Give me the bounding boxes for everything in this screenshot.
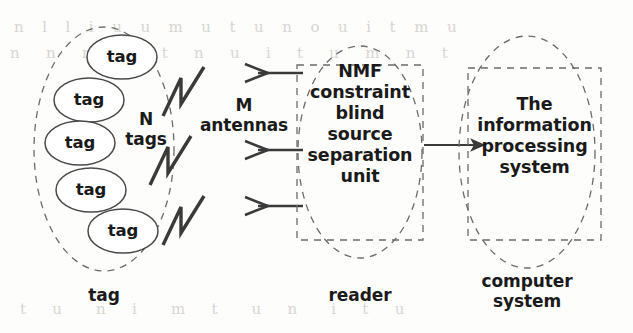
tag-label-1: tag	[92, 47, 152, 66]
m-antennas-label: M antennas	[192, 96, 296, 135]
tag-group-caption: tag	[74, 285, 134, 305]
rf-signal-zigzag-3	[163, 196, 204, 245]
antenna-arrow-2	[245, 141, 303, 159]
antenna-arrows	[245, 64, 303, 215]
antenna-arrow-3	[245, 197, 303, 215]
rf-signal-zigzags	[150, 67, 204, 245]
reader-unit-text: NMF constraint blind source separation u…	[297, 61, 423, 187]
figure-canvas: n l l i u u m u t u n o u i t m u n n n …	[0, 0, 633, 333]
computer-system-caption: computer system	[467, 271, 587, 311]
reader-caption: reader	[318, 285, 402, 305]
antenna-arrow-1	[245, 64, 303, 82]
n-tags-label: N tags	[101, 110, 191, 149]
tag-label-4: tag	[61, 180, 121, 199]
computer-system-text: The information processing system	[468, 94, 601, 178]
tag-label-5: tag	[93, 221, 153, 240]
tag-label-2: tag	[59, 90, 119, 109]
